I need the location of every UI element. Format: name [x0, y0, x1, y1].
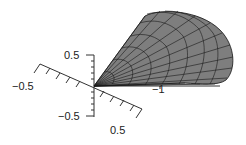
vertical-tick-label-bottom: −0.5 — [58, 110, 80, 122]
vertical-tick-label-top: 0.5 — [64, 49, 79, 61]
diagonal-tick-label-right: 0.5 — [110, 124, 125, 136]
diagonal-tick-label-left: −0.5 — [12, 80, 34, 92]
cone-surface — [94, 11, 233, 86]
horizontal-tick-label: −1 — [152, 83, 165, 95]
